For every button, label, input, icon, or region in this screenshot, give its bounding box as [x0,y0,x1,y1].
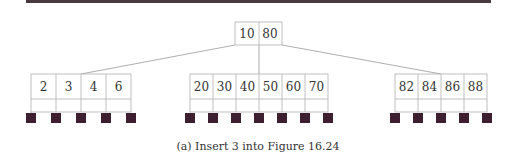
leaf-key: 6 [115,80,123,94]
leaf-key: 86 [445,80,460,94]
leaf-blocks [390,113,492,123]
root-node: 10 80 [235,22,282,45]
leaf-key: 4 [90,80,98,94]
edge-root-right [282,45,441,74]
leaf-key: 40 [240,80,255,94]
leaf-node-1: 2 3 4 6 [26,74,136,123]
leaf-key: 60 [286,80,301,94]
leaf-key: 70 [309,80,324,94]
leaf-key: 84 [422,80,438,94]
leaf-key: 88 [468,80,483,94]
leaf-key: 20 [194,80,209,94]
leaf-key: 50 [263,80,278,94]
leaf-node-2: 20 30 40 50 60 70 [185,74,333,123]
leaf-node-3: 82 84 86 88 [390,74,492,123]
btree-diagram: 10 80 2 3 4 6 20 30 40 50 60 [0,0,516,140]
leaf-key: 82 [399,80,414,94]
leaf-key: 2 [40,80,48,94]
leaf-key: 3 [65,80,73,94]
leaf-blocks [185,113,333,123]
root-key: 80 [262,27,277,41]
edge-root-left [81,45,235,74]
leaf-blocks [26,112,136,123]
root-key: 10 [239,27,254,41]
figure-caption: (a) Insert 3 into Figure 16.24 [0,140,516,153]
leaf-key: 30 [217,80,232,94]
